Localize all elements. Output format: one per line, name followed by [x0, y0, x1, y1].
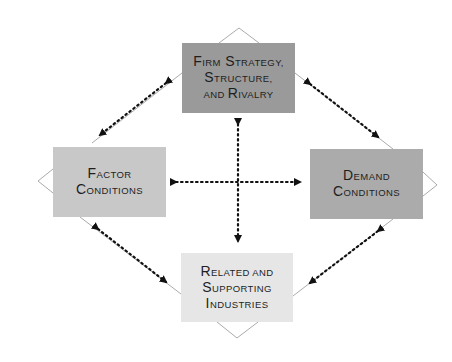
node-related-industries-label: RELATED ANDSUPPORTINGINDUSTRIES [201, 264, 274, 312]
node-firm-strategy: FIRM STRATEGY,STRUCTURE,AND RIVALRY [182, 43, 295, 113]
node-factor-conditions-label: FACTORCONDITIONS [76, 166, 143, 198]
diamond-outline-bottom-apex [217, 322, 258, 338]
label-line: STRUCTURE, [193, 70, 283, 86]
label-line: FACTOR [76, 166, 143, 182]
label-line: CONDITIONS [76, 182, 143, 198]
diamond-outline-left-apex [38, 169, 53, 193]
label-line: DEMAND [333, 168, 400, 184]
label-line: INDUSTRIES [201, 296, 274, 312]
arrow-bottom-left [98, 229, 166, 282]
node-firm-strategy-label: FIRM STRATEGY,STRUCTURE,AND RIVALRY [193, 54, 283, 102]
node-related-industries: RELATED ANDSUPPORTINGINDUSTRIES [181, 253, 293, 322]
label-line: FIRM STRATEGY, [193, 54, 283, 70]
node-demand-conditions: DEMANDCONDITIONS [310, 149, 423, 219]
label-line: RELATED AND [201, 264, 274, 280]
label-line: CONDITIONS [333, 184, 400, 200]
node-demand-conditions-label: DEMANDCONDITIONS [333, 168, 400, 200]
diamond-outline-right-apex [423, 172, 437, 196]
diamond-outline-top-apex [219, 28, 259, 43]
label-line: SUPPORTING [201, 280, 274, 296]
arrow-top-left [100, 83, 166, 135]
porter-diamond-diagram: FIRM STRATEGY,STRUCTURE,AND RIVALRY FACT… [0, 0, 452, 362]
node-factor-conditions: FACTORCONDITIONS [53, 147, 166, 217]
diamond-outline-top-left [92, 73, 182, 143]
label-line: AND RIVALRY [193, 86, 283, 102]
